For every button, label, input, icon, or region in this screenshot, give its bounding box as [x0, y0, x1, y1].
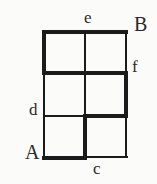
- edge-bottom-right-thin: [87, 156, 128, 158]
- label-f: f: [132, 58, 138, 75]
- label-d: d: [29, 101, 38, 118]
- label-e: e: [84, 9, 92, 26]
- edge-middle-bottom-row-thick: [83, 114, 87, 160]
- label-A: A: [25, 142, 39, 162]
- label-B: B: [134, 14, 147, 34]
- edge-bottom-left-thick: [42, 156, 87, 160]
- edge-left-top-row-thick: [42, 30, 46, 75]
- edge-right-bottom-row-thin: [125, 118, 127, 158]
- label-c: c: [93, 160, 101, 177]
- edge-d-level-right-thick: [83, 114, 128, 118]
- edge-middle-vertical-thin: [84, 32, 86, 116]
- edge-right-top-row-thin: [125, 34, 127, 71]
- grid-path-figure: e B f d A c: [0, 0, 157, 184]
- edge-d-level-left-thin: [44, 115, 85, 117]
- edge-right-middle-row-thick: [124, 71, 128, 118]
